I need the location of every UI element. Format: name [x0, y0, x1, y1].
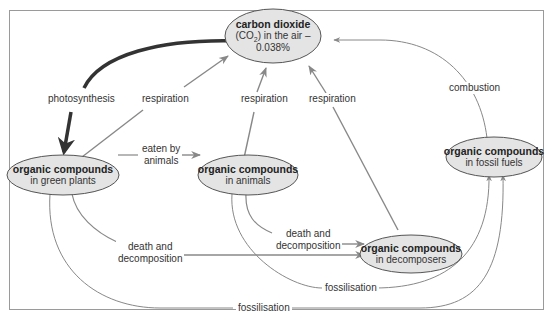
node-fossil-title: organic compounds	[444, 145, 544, 157]
photosynthesis-arrow-lower	[64, 112, 71, 152]
respiration-decomposers-arrow	[333, 107, 398, 230]
death-animals-arrow	[246, 194, 272, 233]
label-fossilisation-animals: fossilisation	[323, 282, 379, 294]
node-co2-line2: (CO2) in the air –	[235, 30, 310, 42]
node-decomposers: organic compounds in decomposers	[360, 235, 462, 273]
node-animals: organic compounds in animals	[198, 155, 298, 195]
label-respiration-decomposers: respiration	[307, 93, 358, 105]
node-decomposers-title: organic compounds	[361, 242, 461, 254]
node-plants-title: organic compounds	[13, 163, 113, 175]
label-respiration-animals: respiration	[239, 93, 290, 105]
respiration-plants-arrow	[82, 110, 143, 157]
label-death-decomposition-animals: death and decomposition	[274, 228, 342, 252]
label-respiration-plants: respiration	[140, 93, 191, 105]
node-fossil-fuels: organic compounds in fossil fuels	[446, 137, 542, 177]
node-green-plants: organic compounds in green plants	[7, 155, 119, 195]
node-animals-title: organic compounds	[198, 163, 298, 175]
node-co2-line3: 0.038%	[256, 42, 290, 54]
node-plants-sub: in green plants	[30, 175, 96, 187]
node-animals-sub: in animals	[225, 175, 270, 187]
node-co2-title: carbon dioxide	[236, 18, 311, 30]
respiration-animals-arrow	[244, 112, 254, 158]
label-eaten-by-animals: eaten by animals	[140, 143, 182, 167]
node-decomposers-sub: in decomposers	[376, 254, 447, 266]
death-plants-arrow	[72, 194, 117, 242]
label-fossilisation-plants: fossilisation	[236, 302, 292, 314]
node-fossil-sub: in fossil fuels	[465, 157, 522, 169]
photosynthesis-arrow	[84, 41, 242, 88]
node-carbon-dioxide: carbon dioxide (CO2) in the air – 0.038%	[225, 10, 321, 62]
label-photosynthesis: photosynthesis	[46, 93, 117, 105]
label-death-decomposition-plants: death and decomposition	[116, 241, 184, 265]
label-combustion: combustion	[447, 82, 502, 94]
